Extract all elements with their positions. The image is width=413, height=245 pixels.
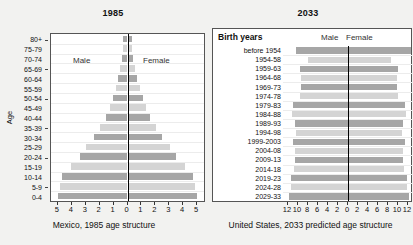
bar-female — [128, 75, 138, 82]
chart-title-2033: 2033 — [208, 8, 408, 18]
bar-female — [348, 175, 407, 181]
female-label-2033: Female — [346, 33, 373, 42]
bar-female — [128, 183, 196, 190]
bar-female — [348, 120, 403, 126]
bar-male — [291, 184, 349, 190]
category-label: 2009-13 — [255, 156, 281, 163]
x-tick-label: 2 — [152, 205, 156, 214]
bar-male — [100, 124, 127, 131]
bar-male — [308, 57, 349, 63]
x-tick-label: 4 — [180, 205, 184, 214]
bar-male — [60, 183, 127, 190]
x-tick-label: 2 — [97, 205, 101, 214]
chart-caption-1985: Mexico, 1985 age structure — [0, 220, 208, 230]
x-tick-label: 1 — [138, 205, 142, 214]
category-label: 1964-68 — [255, 74, 281, 81]
bar-male — [295, 148, 348, 154]
x-tick-label: 6 — [315, 205, 319, 214]
x-tick-label: 10 — [293, 205, 301, 214]
bar-female — [348, 157, 403, 163]
x-tick-label: 12 — [283, 205, 291, 214]
category-label: 2014-18 — [255, 166, 281, 173]
bar-female — [348, 139, 405, 145]
bar-male — [300, 93, 348, 99]
x-tick-label: 4 — [325, 205, 329, 214]
category-label: 1989-93 — [255, 120, 281, 127]
bar-female — [348, 148, 403, 154]
male-label-2033: Male — [321, 33, 338, 42]
x-tick-label: 3 — [83, 205, 87, 214]
x-tick-label: 1 — [110, 205, 114, 214]
category-label: 0-4 — [32, 194, 42, 201]
bar-male — [292, 111, 348, 117]
category-label: 1984-88 — [255, 111, 281, 118]
category-label: 40-44 — [24, 115, 42, 122]
x-tick-label: 5 — [194, 205, 198, 214]
y-tick — [45, 128, 48, 129]
bar-female — [348, 47, 411, 53]
bar-female — [128, 95, 143, 102]
x-axis-1985: 54321012345 — [50, 202, 205, 216]
bar-male — [94, 134, 127, 141]
y-tick — [45, 40, 48, 41]
bar-male — [293, 139, 348, 145]
y-axis-title-age: Age — [5, 103, 14, 133]
bar-male — [120, 65, 127, 72]
x-tick-label: 12 — [403, 205, 411, 214]
bar-male — [301, 84, 349, 90]
center-axis-line-1985 — [128, 34, 129, 201]
population-pyramid-figure: 1985 Age 80+75-7970-7465-6960-6455-5950-… — [0, 0, 413, 245]
category-label: 1974-78 — [255, 93, 281, 100]
bar-male — [58, 193, 128, 200]
bar-male — [294, 166, 348, 172]
male-label-1985: Male — [73, 56, 90, 65]
bar-female — [128, 134, 162, 141]
category-label: 55-59 — [24, 86, 42, 93]
category-label: 75-79 — [24, 46, 42, 53]
bar-male — [289, 193, 348, 199]
category-label: 2004-08 — [255, 147, 281, 154]
bar-male — [116, 85, 128, 92]
bar-female — [128, 85, 140, 92]
category-label: 1969-73 — [255, 84, 281, 91]
age-label-column: 80+75-7970-7465-6960-6455-5950-5445-4940… — [14, 35, 48, 200]
chart-panel-2033: 2033 Birth years Male Female before 1954… — [208, 8, 413, 245]
bar-male — [106, 114, 128, 121]
bar-female — [348, 75, 397, 81]
y-tick — [45, 69, 48, 70]
bar-female — [128, 114, 151, 121]
bar-male — [295, 120, 349, 126]
category-label: 50-54 — [24, 95, 42, 102]
bar-female — [128, 173, 194, 180]
category-label: 5-9 — [32, 184, 42, 191]
bar-female — [128, 193, 198, 200]
x-tick-label: 6 — [375, 205, 379, 214]
category-label: 45-49 — [24, 105, 42, 112]
x-tick-label: 2 — [355, 205, 359, 214]
bar-male — [62, 173, 127, 180]
x-tick-label: 5 — [55, 205, 59, 214]
bar-female — [128, 104, 146, 111]
y-tick — [45, 99, 48, 100]
bar-female — [348, 166, 404, 172]
x-tick-label: 2 — [335, 205, 339, 214]
bar-female — [348, 57, 391, 63]
bar-female — [348, 111, 406, 117]
category-label: 25-29 — [24, 144, 42, 151]
y-tick — [45, 187, 48, 188]
bar-male — [296, 130, 348, 136]
center-axis-line-2033 — [348, 46, 349, 201]
category-label: 20-24 — [24, 154, 42, 161]
bar-male — [291, 175, 348, 181]
x-tick-label: 8 — [385, 205, 389, 214]
bar-female — [348, 93, 398, 99]
category-label: 30-34 — [24, 135, 42, 142]
x-tick-label: 8 — [305, 205, 309, 214]
bar-female — [348, 66, 398, 72]
x-tick-label: 0 — [345, 205, 349, 214]
bar-male — [295, 157, 348, 163]
bar-female — [128, 153, 177, 160]
bar-female — [348, 184, 407, 190]
category-label: 1994-98 — [255, 129, 281, 136]
bar-male — [113, 95, 127, 102]
